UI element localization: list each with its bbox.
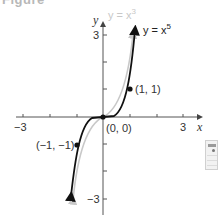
point-label-m1-m1: (−1, −1) — [36, 139, 75, 151]
point-0-0 — [100, 114, 105, 119]
x-tick-minus3: −3 — [14, 121, 27, 133]
y-tick-3: 3 — [93, 29, 99, 41]
x-axis-label: x — [196, 120, 203, 134]
calculator-dot-icon — [212, 149, 215, 152]
calculator-row-divider — [207, 160, 217, 161]
calculator-row-divider — [207, 165, 217, 166]
point-m1-m1 — [74, 142, 79, 147]
x-tick-3: 3 — [180, 121, 186, 133]
plot-area: y x 3 −3 −3 3 y = x3 y = x5 (1, 1) (0, 0… — [0, 0, 222, 220]
point-label-0-0: (0, 0) — [106, 122, 132, 134]
calculator-icon[interactable] — [205, 140, 218, 170]
curve-x3-label: y = x3 — [108, 7, 137, 21]
y-axis-label: y — [92, 13, 99, 27]
y-tick-minus3: −3 — [87, 193, 100, 205]
calculator-row-divider — [207, 155, 217, 156]
point-label-1-1: (1, 1) — [135, 83, 161, 95]
calculator-display-icon — [208, 144, 216, 147]
curve-x5-label: y = x5 — [143, 22, 172, 36]
point-1-1 — [127, 86, 132, 91]
